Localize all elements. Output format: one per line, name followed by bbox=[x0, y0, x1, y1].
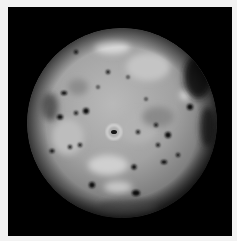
moon-disc bbox=[27, 28, 217, 218]
moon-photo bbox=[8, 7, 232, 236]
photo-frame bbox=[8, 7, 232, 236]
